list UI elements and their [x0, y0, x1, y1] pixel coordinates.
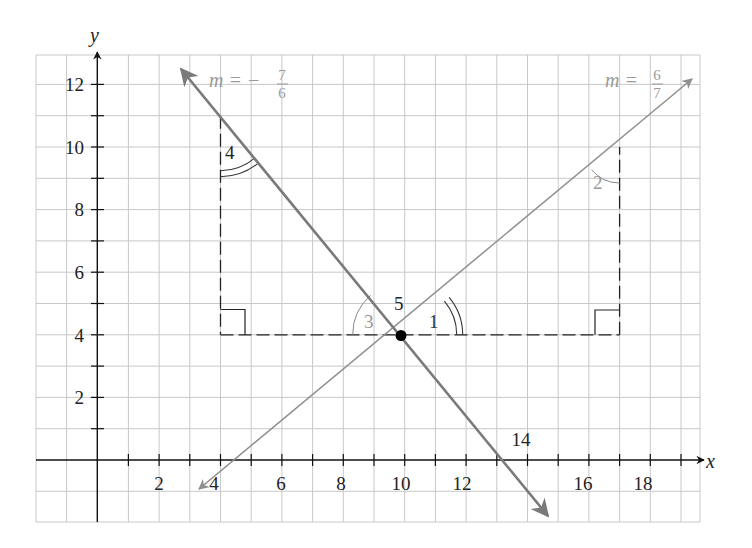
- x-tick-labels: 2 4 6 8 10 12 14 16 18: [154, 429, 652, 494]
- angle-label-5: 5: [394, 293, 404, 314]
- y-tick-label: 2: [75, 387, 85, 408]
- y-tick-label: 8: [75, 199, 85, 220]
- slope-label-negative-num: 7: [278, 67, 286, 83]
- line-positive-slope: [199, 79, 692, 489]
- angle-label-3: 3: [364, 311, 374, 332]
- slope-triangles: [221, 116, 620, 335]
- angle-arcs: [221, 158, 620, 335]
- slope-label-negative-m: m = −: [209, 69, 260, 91]
- slope-label-positive-den: 7: [653, 85, 661, 101]
- slope-label-negative-den: 6: [278, 85, 286, 101]
- y-tick-label: 6: [75, 262, 85, 283]
- x-tick-label: 10: [392, 473, 411, 494]
- x-tick-label: 12: [453, 473, 472, 494]
- y-tick-label: 12: [65, 74, 84, 95]
- y-tick-label: 4: [75, 325, 85, 346]
- intersection-point: [396, 330, 407, 341]
- angle-label-4: 4: [225, 142, 235, 163]
- slope-label-positive-m: m =: [605, 69, 638, 91]
- x-tick-label: 18: [634, 473, 653, 494]
- x-tick-label: 2: [154, 473, 164, 494]
- angle-label-1: 1: [429, 311, 439, 332]
- angle-4-arc-outer: [221, 163, 259, 177]
- angle-label-2: 2: [593, 172, 603, 193]
- right-angle-markers: [221, 310, 620, 335]
- coordinate-diagram: x y 2 4 6 8 10 12 14 16 18 2 4 6 8 10 12: [0, 0, 752, 548]
- x-tick-label: 16: [574, 473, 593, 494]
- x-tick-label: 6: [276, 473, 286, 494]
- right-angle-marker-right: [595, 310, 620, 335]
- axes: [36, 52, 704, 522]
- x-axis-label: x: [705, 450, 715, 472]
- slope-label-positive: m = 6 7: [605, 67, 663, 101]
- y-axis-label: y: [88, 24, 99, 47]
- slope-label-positive-num: 6: [653, 67, 661, 83]
- y-tick-label: 10: [65, 137, 84, 158]
- line-negative-slope: [181, 69, 548, 516]
- x-tick-label: 8: [336, 473, 346, 494]
- grid: [36, 55, 700, 522]
- right-angle-marker-left: [221, 310, 246, 335]
- x-tick-label: 14: [512, 429, 532, 450]
